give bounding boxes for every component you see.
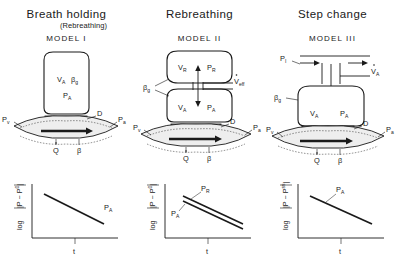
alveolar-ventilation-label: VA bbox=[371, 67, 380, 77]
blood-flow-label-1: Q bbox=[53, 146, 59, 155]
capillary-vessel bbox=[14, 116, 118, 139]
panel-title-text-2: Rebreathing bbox=[166, 8, 233, 20]
series-line-PR-2 bbox=[183, 196, 243, 224]
inspired-pressure-label: PI bbox=[280, 54, 286, 64]
panel-subtitle-1: (Rebreathing) bbox=[0, 21, 133, 30]
svg-text:log: log bbox=[148, 220, 157, 230]
model-label-2: MODEL II bbox=[133, 34, 266, 43]
blood-beta-label-3: β bbox=[338, 156, 342, 165]
chart-model-1: log |P − P0| PA t bbox=[0, 180, 133, 260]
blood-beta-label-2: β bbox=[207, 154, 211, 163]
svg-text:|P − P0|: |P − P0| bbox=[14, 184, 24, 208]
series-label-PA-3: PA bbox=[336, 185, 345, 195]
diagram-model-2: VR PR VA PA Veff bbox=[133, 46, 266, 171]
svg-text:log: log bbox=[281, 220, 290, 230]
arterial-pressure-label-1: Pa bbox=[118, 115, 126, 125]
gas-beta-label-3: βg bbox=[274, 93, 281, 103]
panel-breath-holding: Breath holding (Rebreathing) MODEL I VA … bbox=[0, 0, 133, 267]
alveolar-bag-shape-2 bbox=[167, 89, 232, 122]
series-label-PA-1: PA bbox=[104, 203, 113, 213]
panel-title-3: Step change bbox=[266, 8, 399, 20]
membrane-label-3: D bbox=[363, 119, 368, 128]
figure-sheet: Breath holding (Rebreathing) MODEL I VA … bbox=[0, 0, 400, 267]
venous-pressure-label-3: Pv bbox=[266, 125, 274, 135]
inspired-flow-arrow-right bbox=[348, 60, 368, 66]
alveolar-bag-shape bbox=[44, 52, 89, 114]
chart-model-2: log |P − P0| PR PA t bbox=[133, 180, 266, 260]
veff-dot bbox=[236, 74, 238, 76]
arterial-pressure-label-2: Pa bbox=[253, 123, 261, 133]
diagram-model-3: PI VA VA PA βg bbox=[266, 46, 399, 171]
diagram-model-1: VA βg PA Pv bbox=[0, 46, 133, 171]
venous-pressure-label-2: Pv bbox=[133, 123, 141, 133]
chart-model-3: log |P − Pss| PA t bbox=[266, 180, 399, 260]
blood-beta-label-1: β bbox=[77, 146, 81, 155]
venous-pressure-label-1: Pv bbox=[2, 115, 10, 125]
panel-step-change: Step change MODEL III PI bbox=[266, 0, 399, 267]
va-dot bbox=[373, 64, 375, 66]
x-axis-label-3: t bbox=[339, 247, 341, 256]
rebreathing-bag-shape bbox=[167, 51, 232, 83]
svg-text:|P − P0|: |P − P0| bbox=[147, 184, 157, 208]
series-line-PA-2 bbox=[183, 201, 243, 229]
capillary-vessel-3 bbox=[272, 126, 384, 149]
panel-rebreathing: Rebreathing MODEL II VR PR VA PA bbox=[133, 0, 266, 267]
y-axis-label-1: log |P − P0| bbox=[14, 184, 24, 230]
y-axis-label-2: log |P − P0| bbox=[147, 184, 157, 230]
veff-label: Veff bbox=[234, 77, 245, 87]
blood-flow-label-2: Q bbox=[183, 154, 189, 163]
membrane-label-2: D bbox=[230, 117, 235, 126]
series-line-PA-3 bbox=[310, 196, 372, 224]
x-axis-label-1: t bbox=[73, 247, 75, 256]
svg-text:log: log bbox=[15, 220, 24, 230]
series-label-PA-2: PA bbox=[171, 209, 180, 219]
inspired-flow-arrow-left bbox=[300, 60, 320, 66]
capillary-vessel-2 bbox=[141, 124, 251, 147]
panel-title-text-1: Breath holding bbox=[27, 8, 107, 20]
alveolar-bag-shape-3 bbox=[298, 86, 364, 126]
membrane-label-1: D bbox=[97, 109, 102, 118]
panel-title-1: Breath holding (Rebreathing) bbox=[0, 8, 133, 30]
model-label-1: MODEL I bbox=[0, 34, 133, 43]
panel-title-text-3: Step change bbox=[298, 8, 367, 20]
blood-flow-label-3: Q bbox=[314, 156, 320, 165]
series-label-PR-2: PR bbox=[201, 184, 210, 194]
x-axis-label-2: t bbox=[206, 247, 208, 256]
y-axis-label-3: log |P − Pss| bbox=[280, 181, 290, 230]
arterial-pressure-label-3: Pa bbox=[386, 125, 394, 135]
gas-beta-label-2: βg bbox=[143, 83, 150, 93]
panel-title-2: Rebreathing bbox=[133, 8, 266, 20]
model-label-3: MODEL III bbox=[266, 34, 399, 43]
series-line-PA-1 bbox=[44, 194, 104, 224]
svg-text:|P − Pss|: |P − Pss| bbox=[280, 181, 290, 208]
